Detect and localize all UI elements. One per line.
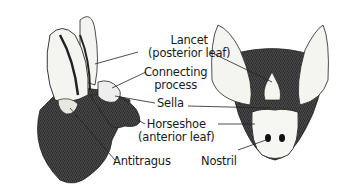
front-ear-right bbox=[298, 25, 328, 105]
label-sella: Sella bbox=[157, 97, 184, 110]
label-connecting-line2: process bbox=[144, 79, 207, 92]
front-horseshoe bbox=[252, 109, 299, 158]
label-lancet: Lancet (posterior leaf) bbox=[148, 34, 230, 60]
leader-lancet-left bbox=[95, 52, 138, 64]
label-nostril: Nostril bbox=[201, 155, 237, 168]
label-antitragus: Antitragus bbox=[113, 155, 171, 168]
side-noseleaf bbox=[98, 81, 120, 103]
label-connecting-process: Connecting process bbox=[144, 66, 207, 92]
label-horseshoe-line2: (anterior leaf) bbox=[138, 131, 215, 144]
label-horseshoe: Horseshoe (anterior leaf) bbox=[138, 118, 215, 144]
front-nostril-right bbox=[279, 134, 285, 142]
label-lancet-line2: (posterior leaf) bbox=[148, 47, 230, 60]
leader-connecting bbox=[112, 72, 146, 88]
front-nostril-left bbox=[265, 134, 271, 142]
